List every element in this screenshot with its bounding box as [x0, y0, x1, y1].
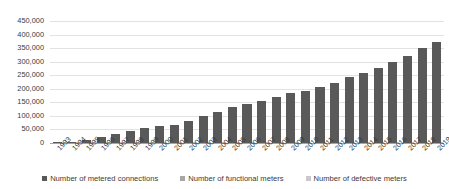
legend-swatch-icon [306, 176, 311, 181]
bar-group [298, 21, 313, 143]
bar [359, 73, 368, 143]
bar-group [254, 21, 269, 143]
bar-group [386, 21, 401, 143]
bar-group [108, 21, 123, 143]
legend-item[interactable]: Number of metered connections [42, 174, 158, 183]
bar-group [211, 21, 226, 143]
y-axis-tick-label: 400,000 [0, 31, 44, 39]
bar-group [240, 21, 255, 143]
bar-chart: 450,000400,000350,000300,000250,000200,0… [0, 0, 449, 189]
bar-group [415, 21, 430, 143]
plot-area [50, 21, 444, 143]
bar-group [181, 21, 196, 143]
legend-swatch-icon [42, 176, 47, 181]
legend-item[interactable]: Number of defective meters [306, 174, 407, 183]
bar [330, 83, 339, 143]
bar-group [196, 21, 211, 143]
bar-group [50, 21, 65, 143]
bar [315, 87, 324, 143]
bar-group [327, 21, 342, 143]
bar-group [123, 21, 138, 143]
legend-label: Number of metered connections [50, 174, 158, 183]
legend-label: Number of functional meters [188, 174, 283, 183]
chart-legend: Number of metered connectionsNumber of f… [0, 170, 449, 186]
plot-wrapper: 450,000400,000350,000300,000250,000200,0… [0, 0, 449, 150]
bar-group [342, 21, 357, 143]
bar [432, 42, 441, 143]
bar-group [284, 21, 299, 143]
bar-group [94, 21, 109, 143]
y-axis: 450,000400,000350,000300,000250,000200,0… [0, 15, 48, 145]
bar-group [152, 21, 167, 143]
bar-series-container [50, 21, 444, 143]
bar-group [138, 21, 153, 143]
bar [388, 62, 397, 143]
bar-group [225, 21, 240, 143]
bar [286, 93, 295, 143]
bar-group [269, 21, 284, 143]
bar-group [313, 21, 328, 143]
legend-label: Number of defective meters [314, 174, 407, 183]
bar-group [167, 21, 182, 143]
y-axis-tick-label: 250,000 [0, 71, 44, 79]
bar-group [356, 21, 371, 143]
y-axis-tick-label: 450,000 [0, 17, 44, 25]
bar [345, 77, 354, 143]
bar [301, 91, 310, 143]
y-axis-tick-label: 150,000 [0, 98, 44, 106]
bar-group [429, 21, 444, 143]
y-axis-tick-label: 350,000 [0, 44, 44, 52]
bar [418, 48, 427, 143]
bar [374, 68, 383, 143]
y-axis-tick-label: 300,000 [0, 58, 44, 66]
y-axis-tick-label: 100,000 [0, 112, 44, 120]
bar-group [400, 21, 415, 143]
y-axis-tick-label: 200,000 [0, 85, 44, 93]
bar-group [65, 21, 80, 143]
y-axis-tick-label: 0 [0, 139, 44, 147]
legend-swatch-icon [180, 176, 185, 181]
y-axis-tick-label: 50,000 [0, 125, 44, 133]
legend-item[interactable]: Number of functional meters [180, 174, 283, 183]
bar-group [371, 21, 386, 143]
bar [403, 56, 412, 143]
bar-group [79, 21, 94, 143]
